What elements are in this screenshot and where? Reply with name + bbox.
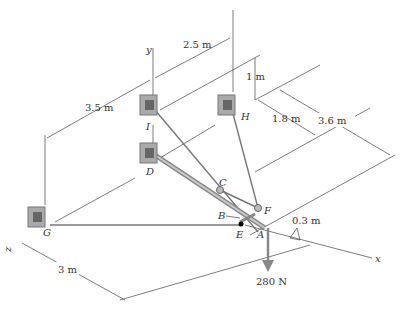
- label-a: A: [256, 229, 264, 240]
- dim-1-8-label: 1.8 m: [272, 113, 301, 124]
- dim-1-label: 1 m: [246, 71, 266, 82]
- label-g: G: [43, 227, 51, 238]
- joint-f: [255, 205, 262, 212]
- label-c: C: [219, 177, 227, 188]
- support-i: [140, 95, 157, 115]
- guide-line: [55, 178, 135, 222]
- label-i: I: [145, 121, 151, 132]
- leader-b: [226, 216, 240, 218]
- dim-3-label: 3 m: [58, 264, 78, 275]
- x-axis-label: x: [375, 253, 381, 264]
- label-b: B: [217, 210, 225, 221]
- statics-diagram: x y z 2.5 m 3.5 m 1 m 1.8 m 3.6 m 3 m 0.…: [0, 0, 402, 311]
- support-g: [28, 207, 45, 227]
- label-d: D: [145, 166, 154, 177]
- support-d: [140, 143, 157, 163]
- load-label: 280 N: [256, 276, 287, 287]
- guide-line: [250, 155, 395, 235]
- label-f: F: [263, 205, 272, 216]
- cable-h-f: [232, 110, 258, 208]
- load-arrowhead: [262, 260, 274, 272]
- guide-line: [160, 125, 215, 158]
- support-h: [218, 95, 235, 115]
- dim-2-5-label: 2.5 m: [183, 39, 212, 50]
- dim-0-3-label: 0.3 m: [292, 215, 321, 226]
- dim-ext-3: [120, 245, 310, 300]
- label-e: E: [235, 229, 244, 240]
- y-axis-label: y: [145, 44, 152, 55]
- joint-e: [239, 222, 244, 227]
- z-axis-label: z: [2, 246, 13, 253]
- label-h: H: [240, 111, 250, 122]
- dim-3-5-label: 3.5 m: [85, 102, 114, 113]
- dim-3-6-label: 3.6 m: [318, 115, 347, 126]
- guide-line: [160, 55, 260, 110]
